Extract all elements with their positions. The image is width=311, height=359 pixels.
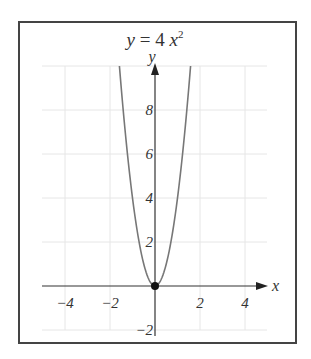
svg-text:−2: −2 [101, 295, 119, 311]
svg-text:6: 6 [146, 146, 154, 162]
x-axis-label: x [271, 277, 279, 294]
svg-text:8: 8 [146, 102, 154, 118]
svg-text:2: 2 [146, 234, 154, 250]
chart-canvas: y = 4 x2 y x −4 −2 2 4 −2 2 4 6 8 [0, 0, 311, 359]
x-tick-labels: −4 −2 2 4 [56, 295, 249, 311]
y-axis-label: y [146, 48, 156, 66]
y-tick-labels: −2 2 4 6 8 [135, 102, 153, 338]
svg-text:4: 4 [241, 295, 249, 311]
x-axis-arrow-icon [256, 282, 268, 290]
svg-text:4: 4 [146, 190, 154, 206]
svg-text:−4: −4 [56, 295, 74, 311]
vertex-point [151, 282, 159, 290]
title: y = 4 x2 [125, 28, 184, 50]
svg-text:−2: −2 [135, 322, 153, 338]
svg-text:2: 2 [196, 295, 204, 311]
